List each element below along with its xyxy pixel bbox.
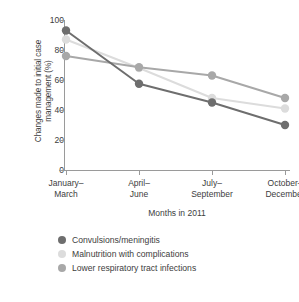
data-point-s1-x3[interactable] (281, 104, 289, 112)
series-line-1 (66, 40, 285, 109)
chart-figure: Changes made to initial case management … (0, 0, 299, 302)
data-point-s2-x2[interactable] (208, 71, 216, 79)
data-point-s0-x2[interactable] (208, 98, 216, 106)
data-point-s2-x0[interactable] (62, 52, 70, 60)
legend-item-lower-respiratory-tract-infections[interactable]: Lower respiratory tract infections (58, 261, 298, 275)
series-2 (62, 52, 289, 102)
series-line-2 (66, 56, 285, 98)
data-point-s0-x1[interactable] (135, 80, 143, 88)
legend-item-convulsions-meningitis[interactable]: Convulsions/meningitis (58, 233, 298, 247)
legend-label-0: Convulsions/meningitis (72, 236, 160, 245)
legend-item-malnutrition-with-complications[interactable]: Malnutrition with complications (58, 247, 298, 261)
legend-marker-icon-1 (58, 250, 66, 258)
series-0 (62, 26, 289, 129)
legend-label-2: Lower respiratory tract infections (72, 264, 196, 273)
chart-legend: Convulsions/meningitis Malnutrition with… (58, 233, 298, 275)
series-line-0 (66, 31, 285, 126)
legend-label-1: Malnutrition with complications (72, 250, 189, 259)
legend-marker-icon-0 (58, 236, 66, 244)
data-point-s2-x1[interactable] (135, 63, 143, 71)
data-point-s0-x3[interactable] (281, 121, 289, 129)
legend-marker-icon-2 (58, 264, 66, 272)
data-point-s2-x3[interactable] (281, 94, 289, 102)
series-1 (62, 35, 289, 112)
data-point-s1-x0[interactable] (62, 35, 70, 43)
data-point-s0-x0[interactable] (62, 26, 70, 34)
